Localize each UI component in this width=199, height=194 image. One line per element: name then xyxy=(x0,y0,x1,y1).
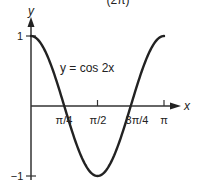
x-axis-label: x xyxy=(183,99,191,113)
x-tick-label-pi-2: π/2 xyxy=(90,114,107,126)
y-tick-label-neg1: −1 xyxy=(11,170,24,182)
y-axis-label: y xyxy=(27,4,35,18)
y-axis-arrow-icon xyxy=(28,17,35,27)
x-axis-arrow-icon xyxy=(170,103,181,110)
x-tick-label-pi: π xyxy=(160,114,168,126)
chart-title-cropped: (2π) xyxy=(107,0,130,7)
cosine-chart: (2π) y x 1 −1 π/4 π/2 3π/4 π y = cos 2x xyxy=(0,0,199,194)
equation-label: y = cos 2x xyxy=(60,61,114,75)
y-tick-label-1: 1 xyxy=(17,30,23,42)
